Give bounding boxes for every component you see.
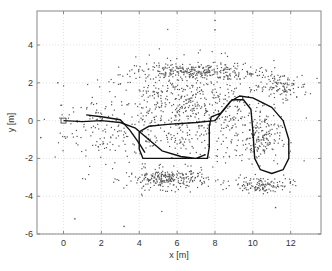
x-tick-label: 0 — [61, 238, 66, 248]
y-tick-label: 0 — [28, 116, 33, 126]
x-tick-label: 8 — [212, 238, 217, 248]
x-axis-ticks: 024681012 — [61, 11, 296, 248]
x-tick-label: 4 — [137, 238, 142, 248]
y-tick-label: 2 — [28, 78, 33, 88]
y-tick-label: -4 — [25, 191, 33, 201]
x-tick-label: 10 — [248, 238, 258, 248]
trajectory-plot: 024681012 -6-4-2024 x [m] y [m] — [0, 0, 332, 271]
x-tick-label: 6 — [175, 238, 180, 248]
x-tick-label: 2 — [99, 238, 104, 248]
y-tick-label: -6 — [25, 229, 33, 239]
y-axis-label: y [m] — [6, 113, 16, 133]
y-tick-label: -2 — [25, 153, 33, 163]
y-axis-ticks: -6-4-2024 — [25, 40, 321, 239]
grid-lines — [37, 11, 321, 234]
x-tick-label: 12 — [286, 238, 296, 248]
plot-frame — [37, 11, 321, 234]
y-tick-label: 4 — [28, 40, 33, 50]
x-axis-label: x [m] — [169, 250, 189, 260]
